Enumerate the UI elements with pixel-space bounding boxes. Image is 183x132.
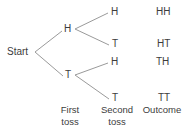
node-second-toss-tails-1: T bbox=[112, 39, 118, 49]
column-header-first-toss-line2: toss bbox=[49, 116, 91, 128]
column-header-second-toss-line2: toss bbox=[93, 116, 141, 128]
node-start: Start bbox=[7, 47, 28, 57]
edge-h-to-h bbox=[75, 13, 108, 29]
column-header-first-toss-line1: First bbox=[49, 104, 91, 116]
node-first-toss-heads: H bbox=[64, 24, 71, 34]
edge-h-to-t bbox=[75, 29, 109, 45]
column-header-second-toss: Second toss bbox=[93, 104, 141, 127]
node-first-toss-tails: T bbox=[65, 70, 71, 80]
outcome-hh: HH bbox=[156, 7, 170, 17]
edge-t-to-h bbox=[75, 63, 108, 75]
edge-t-to-t bbox=[75, 75, 109, 99]
column-header-first-toss: First toss bbox=[49, 104, 91, 127]
node-second-toss-tails-2: T bbox=[112, 93, 118, 103]
node-second-toss-heads-2: H bbox=[111, 57, 118, 67]
node-second-toss-heads-1: H bbox=[111, 7, 118, 17]
column-header-second-toss-line1: Second bbox=[93, 104, 141, 116]
outcome-th: TH bbox=[156, 57, 169, 67]
edge-start-to-t bbox=[35, 52, 63, 76]
edge-start-to-h bbox=[35, 31, 62, 52]
column-header-outcome-line1: Outcome bbox=[142, 104, 182, 116]
outcome-ht: HT bbox=[157, 39, 170, 49]
column-header-outcome: Outcome bbox=[142, 104, 182, 116]
tree-diagram: Start H T H T H T HH HT TH TT First toss… bbox=[0, 0, 183, 132]
outcome-tt: TT bbox=[158, 93, 170, 103]
